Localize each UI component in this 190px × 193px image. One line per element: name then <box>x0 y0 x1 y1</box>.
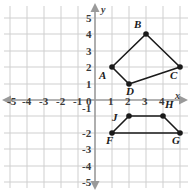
coordinate-plane-figure: -5 -4 -3 -2 -1 0 1 2 3 4 5 4 3 2 1 -1 -2… <box>0 0 190 193</box>
x-tick-label-neg4: -4 <box>22 96 31 107</box>
y-tick-label-neg2: -2 <box>82 128 91 139</box>
x-axis-right-arrow <box>179 96 188 105</box>
x-tick-label-3: 3 <box>142 96 148 107</box>
y-axis-label: y <box>101 5 105 15</box>
x-tick-label-1: 1 <box>108 96 114 107</box>
y-tick-label-5: 5 <box>86 13 92 24</box>
y-tick-label-3: 3 <box>86 46 92 57</box>
y-tick-label-2: 2 <box>86 62 92 73</box>
vertex-point-c <box>177 64 183 70</box>
vertex-label-f: F <box>106 135 113 146</box>
vertex-point-h <box>160 113 166 119</box>
x-tick-label-2: 2 <box>125 96 131 107</box>
vertex-point-a <box>109 64 115 70</box>
vertex-label-j: J <box>112 112 118 123</box>
vertex-label-b: B <box>134 19 141 30</box>
x-tick-label-neg3: -3 <box>39 96 48 107</box>
vertex-label-a: A <box>99 70 106 81</box>
vertex-label-d: D <box>126 86 134 97</box>
x-tick-label-neg5: -5 <box>7 96 16 107</box>
y-axis-top-arrow <box>91 3 100 12</box>
y-tick-label-4: 4 <box>86 29 92 40</box>
vertex-label-g: G <box>172 135 180 146</box>
vertex-point-b <box>143 31 149 37</box>
vertex-point-j <box>126 113 132 119</box>
x-tick-label-4: 4 <box>159 96 165 107</box>
y-tick-label-neg5: -5 <box>82 177 91 188</box>
y-tick-label-neg3: -3 <box>82 144 91 155</box>
vertex-label-h: H <box>165 99 174 110</box>
x-tick-label-neg2: -2 <box>56 96 65 107</box>
x-tick-label-neg1: -1 <box>73 96 82 107</box>
y-tick-label-1: 1 <box>86 79 92 90</box>
y-tick-label-neg1: -1 <box>82 103 91 114</box>
x-axis-label: x <box>175 91 180 101</box>
y-axis-bottom-arrow <box>91 181 100 190</box>
vertex-label-c: C <box>170 70 177 81</box>
y-tick-label-neg4: -4 <box>82 161 91 172</box>
